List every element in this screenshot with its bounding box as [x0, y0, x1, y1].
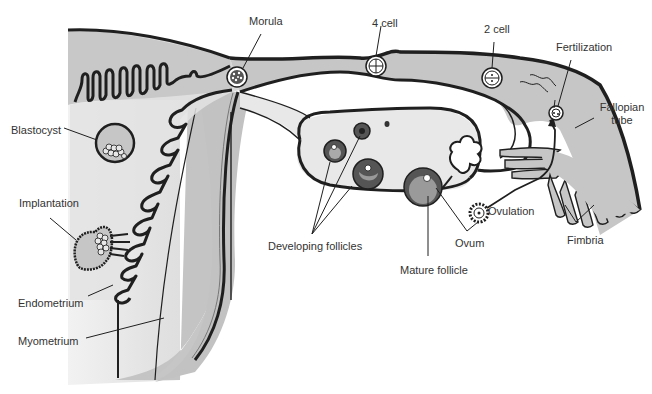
label-mature-follicle: Mature follicle	[400, 264, 468, 277]
label-endometrium: Endometrium	[18, 297, 83, 310]
blastocyst	[96, 124, 134, 162]
label-blastocyst: Blastocyst	[11, 124, 61, 137]
label-fallopian-tube: Fallopian tube	[597, 101, 647, 127]
label-myometrium: Myometrium	[18, 335, 79, 348]
label-fimbria: Fimbria	[567, 234, 604, 247]
label-fallopian-tube-line1: Fallopian	[597, 101, 647, 114]
label-ovum: Ovum	[455, 237, 484, 250]
label-implantation: Implantation	[19, 197, 79, 210]
reproductive-diagram	[0, 0, 652, 394]
label-developing-follicles: Developing follicles	[268, 240, 362, 253]
label-fallopian-tube-line2: tube	[597, 114, 647, 127]
label-ovulation: Ovulation	[488, 205, 534, 218]
label-morula: Morula	[249, 15, 283, 28]
label-2-cell: 2 cell	[484, 23, 510, 36]
label-fertilization: Fertilization	[556, 41, 612, 54]
label-4-cell: 4 cell	[372, 17, 398, 30]
